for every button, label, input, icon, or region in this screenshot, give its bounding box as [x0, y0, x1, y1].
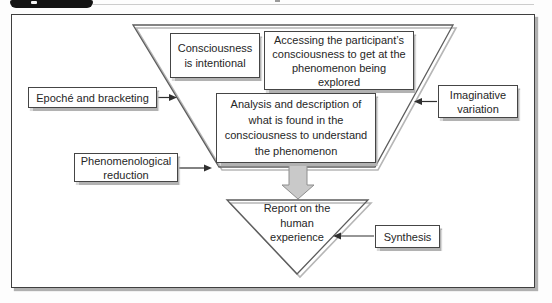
figure-tab — [10, 0, 93, 8]
caption-remnant-mark — [275, 0, 280, 2]
label-imaginative-variation: Imaginative variation — [438, 85, 518, 118]
figure-canvas: Consciousness is intentional Accessing t… — [0, 0, 552, 303]
epoche-arrow — [158, 94, 177, 101]
label-phenomenological-reduction: Phenomenological reduction — [74, 153, 178, 182]
figure-tab-text-remnant — [31, 1, 37, 4]
caption-rule — [93, 4, 534, 5]
imaginative-arrow-head — [414, 98, 422, 105]
phenomenological-arrow-head — [204, 165, 212, 172]
box-accessing-consciousness: Accessing the participant’s consciousnes… — [264, 31, 414, 90]
report-triangle-text: Report on the human experience — [237, 201, 357, 245]
box-analysis-description: Analysis and description of what is foun… — [216, 93, 376, 163]
box-consciousness-is-intentional: Consciousness is intentional — [170, 33, 260, 78]
phenomenological-arrow — [179, 165, 212, 172]
label-epoche-and-bracketing: Epoché and bracketing — [28, 87, 157, 108]
label-synthesis: Synthesis — [375, 225, 440, 248]
